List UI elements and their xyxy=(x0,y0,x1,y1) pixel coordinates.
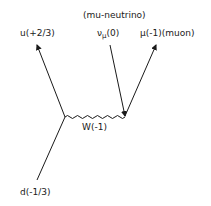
feynman-diagram: (mu-neutrino) νμ(0) μ(-1)(muon) u(+2/3) … xyxy=(0,0,211,206)
mu-neutrino-name-label: (mu-neutrino) xyxy=(83,10,146,20)
muon-line xyxy=(125,45,156,116)
down-quark-label: d(-1/3) xyxy=(20,187,50,197)
muon-label: μ(-1)(muon) xyxy=(140,28,194,38)
up-quark-line xyxy=(37,45,65,117)
neutrino-charge: (0) xyxy=(107,28,120,38)
w-boson-label: W(-1) xyxy=(82,122,107,132)
up-quark-label: u(+2/3) xyxy=(20,28,55,38)
w-boson-propagator xyxy=(65,116,125,119)
mu-neutrino-line xyxy=(110,45,125,116)
mu-neutrino-symbol-label: νμ(0) xyxy=(97,28,119,40)
down-quark-line xyxy=(37,117,65,180)
